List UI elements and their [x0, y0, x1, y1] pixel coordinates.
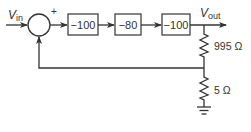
gain-block-2: −80	[115, 14, 141, 35]
resistor-label: 5 Ω	[214, 84, 231, 96]
summing-junction: +	[28, 6, 57, 36]
gain-label: −100	[71, 19, 96, 31]
feedback-path	[39, 37, 204, 68]
output-signal: Vout	[190, 6, 226, 25]
gain-label: −80	[119, 19, 138, 31]
input-signal: Vin	[6, 8, 27, 25]
plus-sign: +	[51, 6, 57, 17]
resistor-995-icon: 995 Ω	[200, 25, 242, 68]
input-label: Vin	[8, 8, 23, 23]
feedback-diagram: Vin + −100 −80 −100 Vout 995 Ω 5 Ω	[0, 0, 251, 132]
output-label: Vout	[200, 6, 221, 21]
resistor-5-icon: 5 Ω	[200, 68, 231, 107]
gain-block-1: −100	[68, 14, 98, 35]
gain-block-3: −100	[162, 14, 190, 35]
gain-label: −100	[164, 19, 189, 31]
resistor-label: 995 Ω	[214, 40, 242, 52]
ground-icon	[197, 107, 211, 114]
